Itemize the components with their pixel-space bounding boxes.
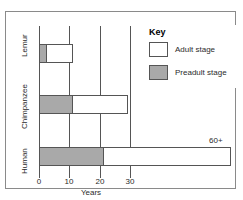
category-label-lemur: Lemur	[20, 34, 29, 57]
bar-segment-lemur-adult	[46, 44, 73, 63]
legend-label-preadult: Preadult stage	[175, 68, 227, 77]
bar-row-lemur	[39, 44, 73, 63]
legend-swatch-adult-icon	[149, 42, 168, 57]
legend: Key Adult stage Preadult stage	[143, 25, 237, 88]
tick-label-10: 10	[59, 177, 79, 186]
legend-title: Key	[149, 27, 166, 37]
x-axis-label: Years	[26, 188, 156, 197]
bar-segment-human-adult	[103, 147, 231, 166]
bar-segment-chimpanzee-adult	[72, 95, 128, 114]
bar-segment-human-preadult	[39, 147, 104, 166]
category-label-human: Human	[20, 148, 29, 174]
legend-label-adult: Adult stage	[175, 45, 215, 54]
chart-screenshot: 0 10 20 30 Years Lemur Chimpanzee Human …	[0, 0, 243, 200]
legend-swatch-preadult-icon	[149, 65, 168, 80]
tick-label-30: 30	[120, 177, 140, 186]
tick-label-0: 0	[29, 177, 49, 186]
bar-row-human	[39, 147, 231, 166]
tick-label-20: 20	[90, 177, 110, 186]
bar-row-chimpanzee	[39, 95, 128, 114]
bar-end-label-human: 60+	[209, 136, 223, 145]
bar-segment-chimpanzee-preadult	[39, 95, 73, 114]
category-label-chimpanzee: Chimpanzee	[20, 84, 29, 129]
chart-frame: 0 10 20 30 Years Lemur Chimpanzee Human …	[5, 11, 236, 189]
